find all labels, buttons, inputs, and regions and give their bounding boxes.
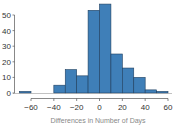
histogram-chart: 01020304050 −60−40−200204060 Differences… bbox=[0, 0, 178, 126]
histogram-bar bbox=[77, 76, 88, 93]
y-tick-label: 20 bbox=[2, 58, 11, 67]
y-tick-label: 30 bbox=[2, 42, 11, 51]
histogram-bar bbox=[88, 10, 99, 93]
x-tick-label: −60 bbox=[24, 103, 38, 112]
histogram-bar bbox=[122, 68, 133, 93]
x-tick-label: 60 bbox=[164, 103, 173, 112]
histogram-bar bbox=[111, 54, 122, 93]
y-tick-label: 50 bbox=[2, 11, 11, 20]
histogram-bars bbox=[13, 4, 172, 93]
histogram-bar bbox=[100, 4, 111, 93]
histogram-bar bbox=[134, 77, 145, 93]
x-tick-label: −20 bbox=[70, 103, 84, 112]
y-tick-label: 0 bbox=[7, 89, 12, 98]
histogram-bar bbox=[145, 90, 156, 93]
y-tick-label: 10 bbox=[2, 73, 11, 82]
y-axis: 01020304050 bbox=[2, 11, 14, 98]
histogram-bar bbox=[157, 91, 168, 93]
x-tick-label: 40 bbox=[141, 103, 150, 112]
x-tick-label: −40 bbox=[47, 103, 61, 112]
y-tick-label: 40 bbox=[2, 27, 11, 36]
x-tick-label: 20 bbox=[118, 103, 127, 112]
x-tick-label: 0 bbox=[97, 103, 102, 112]
histogram-bar bbox=[20, 91, 31, 93]
x-axis-label: Differences in Number of Days bbox=[50, 117, 146, 125]
histogram-bar bbox=[65, 70, 76, 93]
x-axis: −60−40−200204060 bbox=[24, 99, 173, 113]
histogram-bar bbox=[54, 85, 65, 93]
